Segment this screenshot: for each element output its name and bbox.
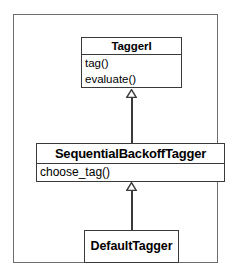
class-member: tag() [82, 55, 181, 71]
class-name-sequentialbackofftagger: SequentialBackoffTagger [37, 144, 224, 163]
uml-class-diagram: TaggerI tag() evaluate() SequentialBacko… [0, 0, 234, 277]
class-members-sequentialbackofftagger: choose_tag() [37, 163, 224, 181]
class-box-sequentialbackofftagger[interactable]: SequentialBackoffTagger choose_tag() [36, 143, 225, 182]
class-box-taggeri[interactable]: TaggerI tag() evaluate() [81, 37, 182, 88]
class-member: evaluate() [82, 71, 181, 87]
class-box-defaulttagger[interactable]: DefaultTagger [84, 230, 179, 263]
generalization-line [131, 190, 133, 230]
class-members-taggeri: tag() evaluate() [82, 54, 181, 87]
generalization-arrow-to-sequentialbackofftagger [126, 182, 137, 230]
diagram-frame: TaggerI tag() evaluate() SequentialBacko… [13, 14, 218, 263]
class-name-defaulttagger: DefaultTagger [85, 231, 178, 261]
generalization-arrow-to-taggeri [126, 89, 137, 143]
generalization-line [131, 97, 133, 143]
class-name-taggeri: TaggerI [82, 38, 181, 54]
class-member: choose_tag() [37, 164, 224, 181]
